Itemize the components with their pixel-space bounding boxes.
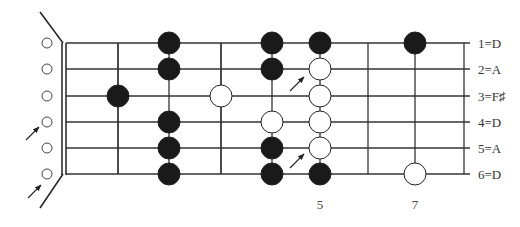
tuning-label: 5=A (478, 141, 502, 156)
fret-number: 5 (317, 197, 324, 212)
tuning-label: 1=D (478, 36, 501, 51)
open-string-circle (42, 38, 52, 48)
open-string-circle (42, 64, 52, 74)
tuning-labels: 1=D2=A3=F♯4=D5=A6=D (478, 36, 506, 182)
filled-note-dot (309, 163, 331, 185)
filled-note-dot (107, 85, 129, 107)
open-note-dot (309, 85, 331, 107)
tuning-label: 4=D (478, 115, 501, 130)
open-note-dot (261, 111, 283, 133)
open-string-circle (42, 169, 52, 179)
fret-numbers: 57 (317, 197, 419, 212)
filled-note-dot (158, 111, 180, 133)
filled-note-dot (158, 137, 180, 159)
open-string-circle (42, 117, 52, 127)
open-string-circle (42, 91, 52, 101)
fret-number: 7 (412, 197, 419, 212)
arrow-icon (290, 154, 304, 168)
filled-note-dot (158, 163, 180, 185)
filled-note-dot (261, 163, 283, 185)
open-string-markers (42, 38, 52, 179)
arrow-icon (26, 127, 39, 140)
tuning-label: 2=A (478, 62, 502, 77)
open-note-dot (210, 85, 232, 107)
arrow-icon (290, 77, 304, 91)
tuning-label: 6=D (478, 167, 501, 182)
filled-note-dot (158, 58, 180, 80)
filled-note-dot (261, 58, 283, 80)
open-string-circle (42, 143, 52, 153)
filled-note-dot (309, 32, 331, 54)
arrow-icon (28, 185, 41, 198)
open-note-dot (309, 58, 331, 80)
fretboard-diagram: 1=D2=A3=F♯4=D5=A6=D 57 (0, 0, 520, 227)
open-note-dot (404, 163, 426, 185)
note-dots (107, 32, 426, 185)
filled-note-dot (261, 137, 283, 159)
tuning-label: 3=F♯ (478, 89, 506, 104)
filled-note-dot (261, 32, 283, 54)
open-note-dot (309, 111, 331, 133)
filled-note-dot (404, 32, 426, 54)
filled-note-dot (158, 32, 180, 54)
open-note-dot (309, 137, 331, 159)
